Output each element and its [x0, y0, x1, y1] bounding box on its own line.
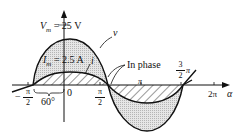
v-leader [100, 37, 112, 48]
tick-half-pi: π 2 [95, 88, 105, 107]
angle-60-label: 60° [41, 97, 55, 107]
tick-three-half-pi: 3 2 [176, 61, 185, 80]
vm-label: Vm = 25 V [40, 21, 81, 35]
tick-pi: π [138, 77, 142, 87]
in-phase-leader-2 [111, 65, 125, 84]
angle-brace [34, 89, 64, 96]
tick-neg-half-pi: π 2 [23, 88, 33, 107]
tick-neg-sign: − [15, 92, 21, 102]
tick-three-half-pi-suffix: π [186, 66, 190, 76]
i-curve-label: i [91, 56, 94, 66]
y-axis-arrow [61, 10, 67, 18]
x-axis-label: α [227, 89, 232, 99]
v-curve-label: v [113, 28, 117, 38]
tick-two-pi: 2π [208, 89, 217, 99]
im-label: Im = 2.5 A [43, 55, 84, 69]
waveform-diagram [0, 0, 240, 140]
tick-zero: 0 [67, 88, 72, 98]
in-phase-label: In phase [127, 60, 161, 70]
